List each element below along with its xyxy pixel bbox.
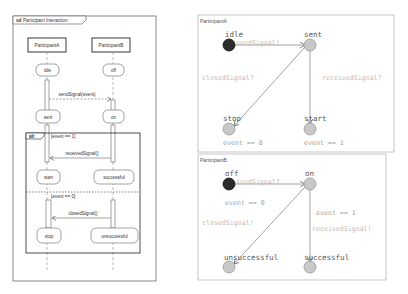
- state-unsuccessful[interactable]: [223, 261, 235, 273]
- seq-state-sent-label: sent: [44, 115, 53, 120]
- automaton-b-panel: ParticipantB off on unsuccessful success…: [198, 154, 386, 280]
- participant-a-label: ParticipantA: [35, 43, 61, 48]
- activation-b-3: [111, 200, 115, 228]
- state-start-label: start: [304, 114, 327, 123]
- automaton-a-title: ParticipantA: [200, 18, 228, 24]
- state-off-initial[interactable]: [223, 178, 235, 190]
- sync-label-send: sendSignal!: [236, 39, 280, 47]
- sync-label-received: receivedSignal?: [322, 74, 382, 82]
- state-on-label: on: [305, 169, 314, 178]
- alt-guard-1: [event == 1]: [51, 134, 75, 139]
- activation-a-3: [46, 200, 51, 228]
- automaton-a-panel: ParticipantA idle sent stop start sendSi…: [198, 15, 394, 152]
- seq-state-off-label: off: [111, 68, 117, 73]
- message-received-label: receivedSignal(): [65, 151, 99, 156]
- activation-b-2: [111, 125, 115, 162]
- invariant-stop: event == 0: [223, 139, 263, 147]
- seq-state-idle-label: idle: [44, 68, 52, 73]
- guard-event-1: event == 1: [316, 209, 356, 217]
- sd-keyword: sd: [16, 18, 22, 23]
- sync-label-received-emit: receivedSignal!: [312, 225, 372, 233]
- state-idle-label: idle: [225, 30, 244, 39]
- alt-guard-2: [event == 0]: [51, 194, 75, 199]
- state-successful-label: successful: [304, 253, 349, 262]
- diagram-canvas: sd Participant Interaction ParticipantA …: [0, 0, 408, 294]
- state-off-label: off: [225, 169, 239, 178]
- message-send-label: sendSignal(event): [58, 92, 95, 97]
- seq-state-start-label: start: [44, 175, 54, 180]
- seq-state-stop-label: stop: [45, 234, 54, 239]
- seq-state-successful-label: successful: [103, 175, 124, 180]
- participant-b-label: ParticipantB: [99, 43, 124, 48]
- state-unsuccessful-label: unsuccessful: [224, 253, 278, 262]
- alt-keyword: alt: [29, 134, 35, 139]
- message-closed-label: closedSignal(): [68, 211, 98, 216]
- state-stop-label: stop: [223, 114, 242, 123]
- invariant-start: event == 1: [304, 139, 344, 147]
- state-stop[interactable]: [223, 123, 235, 135]
- activation-a-2: [45, 125, 49, 162]
- guard-event-0: event == 0: [225, 199, 265, 207]
- state-sent-label: sent: [304, 30, 322, 39]
- state-on[interactable]: [304, 178, 316, 190]
- seq-state-unsuccessful-label: unsuccessful: [101, 234, 128, 239]
- automaton-b-title: ParticipantB: [200, 157, 228, 163]
- state-successful[interactable]: [304, 261, 316, 273]
- state-sent[interactable]: [304, 39, 316, 51]
- sync-label-send-recv: sendSignal?: [236, 178, 280, 186]
- sd-frame-title: Participant Interaction: [23, 18, 68, 23]
- state-start[interactable]: [304, 123, 316, 135]
- sequence-diagram: sd Participant Interaction ParticipantA …: [13, 16, 156, 281]
- sync-label-closed: closedSignal?: [202, 74, 254, 82]
- sync-label-closed-emit: closedSignal!: [202, 219, 254, 227]
- state-idle-initial[interactable]: [223, 39, 235, 51]
- seq-state-on-label: on: [111, 115, 117, 120]
